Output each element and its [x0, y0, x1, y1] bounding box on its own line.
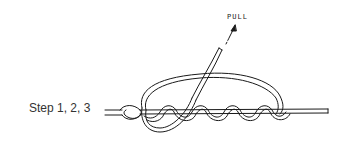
big-loop — [141, 73, 283, 132]
main-line — [105, 109, 328, 115]
pull-arrow-icon — [226, 25, 236, 44]
knot-diagram — [0, 0, 340, 149]
left-eye — [120, 106, 141, 120]
